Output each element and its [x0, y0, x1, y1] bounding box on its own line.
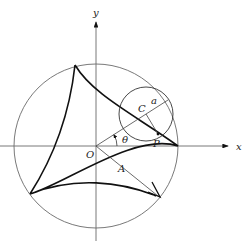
label-o: O: [86, 149, 94, 160]
label-y: y: [92, 7, 99, 18]
label-x: x: [236, 141, 242, 152]
line-c-to-p: [146, 114, 158, 134]
angle-arc: [114, 135, 117, 146]
point-p: [157, 133, 160, 136]
deltoid-diagram: y x O C a θ P A: [0, 0, 251, 241]
label-theta: θ: [122, 134, 128, 145]
label-p: P: [152, 138, 160, 149]
label-a-large: A: [117, 163, 125, 174]
label-a-small: a: [151, 95, 157, 106]
label-c: C: [138, 103, 146, 114]
radius-a-arrow: [96, 146, 158, 196]
